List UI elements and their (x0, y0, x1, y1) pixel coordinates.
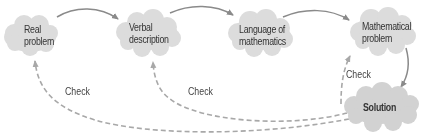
check-label-verbal: Check (188, 86, 213, 97)
node-label-line: Real (24, 24, 54, 36)
arrow-language-to-mathematical (283, 11, 349, 20)
check-label-mathematical: Check (346, 69, 371, 80)
node-verbal-description-label: Verbal description (129, 22, 169, 46)
node-real-problem-label: Real problem (24, 24, 54, 48)
node-label-line: description (129, 34, 169, 46)
check-arrow-solution-to-verbal (153, 62, 347, 121)
node-label-line: Mathematical (362, 21, 411, 33)
node-solution-label: Solution (363, 102, 396, 114)
node-language-of-mathematics-label: Language of mathematics (239, 24, 286, 48)
arrow-verbal-to-language (170, 6, 233, 15)
node-mathematical-problem-label: Mathematical problem (362, 21, 411, 45)
node-label-line: Verbal (129, 22, 169, 34)
check-arrow-solution-to-mathematical (341, 56, 350, 104)
arrow-real-to-verbal (57, 9, 118, 19)
node-label-line: mathematics (239, 36, 286, 48)
arrow-mathematical-to-solution (401, 48, 408, 87)
check-label-real: Check (65, 86, 90, 97)
node-label-line: problem (362, 33, 411, 45)
node-label-line: Language of (239, 24, 286, 36)
node-label-line: Solution (363, 102, 396, 114)
node-label-line: problem (24, 36, 54, 48)
